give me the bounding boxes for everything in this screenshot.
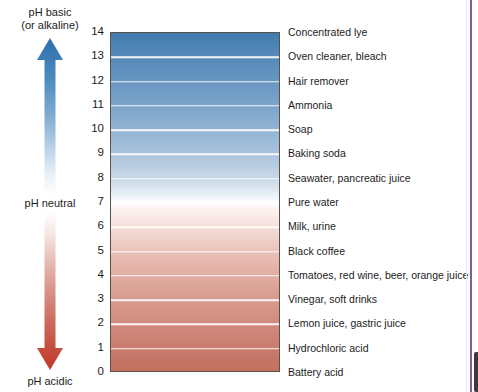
- substance-label-ph-10: Soap: [288, 124, 313, 135]
- ph-tick-8: 8: [76, 172, 104, 184]
- substance-label-ph-14: Concentrated lye: [288, 27, 367, 38]
- ph-tick-5: 5: [76, 245, 104, 257]
- ph-tick-12: 12: [76, 75, 104, 87]
- ph-separator-1: [111, 348, 279, 350]
- ph-tick-scale: 14131211109876543210: [76, 32, 104, 372]
- ph-tick-9: 9: [76, 148, 104, 160]
- page-edge-rule-inner: [466, 0, 467, 392]
- ph-tick-13: 13: [76, 51, 104, 63]
- page-edge-tab: [474, 352, 478, 392]
- substance-label-ph-3: Vinegar, soft drinks: [288, 294, 377, 305]
- ph-separator-7: [111, 202, 279, 204]
- ph-separator-3: [111, 299, 279, 301]
- ph-scale-figure: pH basic (or alkaline) pH neutral: [0, 0, 478, 392]
- ph-tick-7: 7: [76, 196, 104, 208]
- substance-label-ph-6: Milk, urine: [288, 221, 336, 232]
- ph-tick-2: 2: [76, 318, 104, 330]
- ph-tick-10: 10: [76, 123, 104, 135]
- ph-tick-14: 14: [76, 26, 104, 38]
- ph-basic-arrow-icon: [36, 38, 64, 196]
- ph-tick-0: 0: [76, 366, 104, 378]
- ph-acidic-arrow-icon: [36, 212, 64, 370]
- ph-tick-11: 11: [76, 99, 104, 111]
- ph-separator-4: [111, 275, 279, 277]
- ph-separator-9: [111, 154, 279, 156]
- ph-tick-3: 3: [76, 293, 104, 305]
- substance-label-ph-4: Tomatoes, red wine, beer, orange juice: [288, 269, 468, 280]
- ph-separator-10: [111, 129, 279, 131]
- substance-label-ph-8: Seawater, pancreatic juice: [288, 172, 411, 183]
- ph-separator-11: [111, 105, 279, 107]
- page-edge-rule: [470, 0, 472, 392]
- substance-label-ph-1: Hydrochloric acid: [288, 342, 369, 353]
- ph-separator-6: [111, 227, 279, 229]
- substance-label-ph-0: Battery acid: [288, 367, 343, 378]
- substance-label-ph-13: Oven cleaner, bleach: [288, 51, 387, 62]
- ph-gradient-bar: [110, 32, 280, 372]
- ph-separator-2: [111, 324, 279, 326]
- ph-separator-12: [111, 81, 279, 83]
- ph-separator-5: [111, 251, 279, 253]
- substance-label-list: Concentrated lyeOven cleaner, bleachHair…: [288, 32, 472, 372]
- ph-basic-label-line1: pH basic: [0, 6, 100, 19]
- ph-tick-4: 4: [76, 269, 104, 281]
- substance-label-ph-11: Ammonia: [288, 99, 332, 110]
- substance-label-ph-5: Black coffee: [288, 245, 345, 256]
- substance-label-ph-2: Lemon juice, gastric juice: [288, 318, 406, 329]
- ph-tick-6: 6: [76, 221, 104, 233]
- substance-label-ph-7: Pure water: [288, 197, 339, 208]
- ph-separator-13: [111, 57, 279, 59]
- substance-label-ph-12: Hair remover: [288, 75, 349, 86]
- substance-label-ph-9: Baking soda: [288, 148, 346, 159]
- ph-tick-1: 1: [76, 342, 104, 354]
- ph-separator-8: [111, 178, 279, 180]
